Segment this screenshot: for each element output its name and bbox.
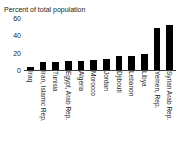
bar	[103, 59, 110, 70]
bar-series	[24, 18, 176, 70]
x-tick-label: Tunisia	[52, 71, 59, 92]
y-tick-label: 40	[13, 32, 21, 39]
bar	[166, 25, 173, 70]
x-tick-label: Jordan	[102, 71, 109, 91]
x-tick-label: Iran, Islamic Rep.	[39, 71, 46, 122]
chart-title: Percent of total population	[4, 6, 85, 13]
x-tick-label: Algeria	[77, 71, 84, 91]
bar	[27, 67, 34, 70]
bar	[90, 60, 97, 70]
bar	[52, 62, 59, 70]
bar	[128, 56, 135, 70]
bar-chart: Percent of total population 0204060 Iraq…	[0, 0, 179, 151]
x-tick-label: Lebanon	[128, 71, 135, 96]
bar	[40, 62, 47, 70]
y-tick-label: 20	[13, 49, 21, 56]
y-axis: 0204060	[0, 18, 24, 70]
x-tick-label: Libya	[140, 71, 147, 87]
bar	[65, 61, 72, 70]
bar	[141, 54, 148, 70]
x-tick-label: Syrian Arab Rep.	[166, 71, 173, 120]
x-axis-labels: IraqIran, Islamic Rep.TunisiaEgypt, Arab…	[24, 71, 176, 151]
x-tick-label: Djibouti	[115, 71, 122, 93]
bar	[116, 56, 123, 70]
bar	[78, 61, 85, 70]
y-tick-label: 60	[13, 15, 21, 22]
x-tick-label: Iraq	[26, 71, 33, 82]
bar	[154, 28, 161, 70]
x-tick-label: Yemen, Rep.	[153, 71, 160, 108]
x-tick-label: Egypt, Arab Rep.	[64, 71, 71, 120]
y-tick-label: 0	[17, 67, 21, 74]
x-tick-label: Morocco	[90, 71, 97, 96]
